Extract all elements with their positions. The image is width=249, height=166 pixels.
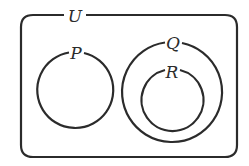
set-p-label: P bbox=[69, 43, 82, 63]
set-r-label: R bbox=[165, 62, 179, 82]
set-q-label: Q bbox=[166, 33, 180, 53]
venn-diagram: U P Q R bbox=[0, 0, 249, 166]
set-p-circle bbox=[37, 53, 113, 128]
universe-rectangle bbox=[21, 15, 237, 157]
set-q-circle bbox=[122, 43, 222, 143]
universe-label: U bbox=[68, 6, 83, 26]
